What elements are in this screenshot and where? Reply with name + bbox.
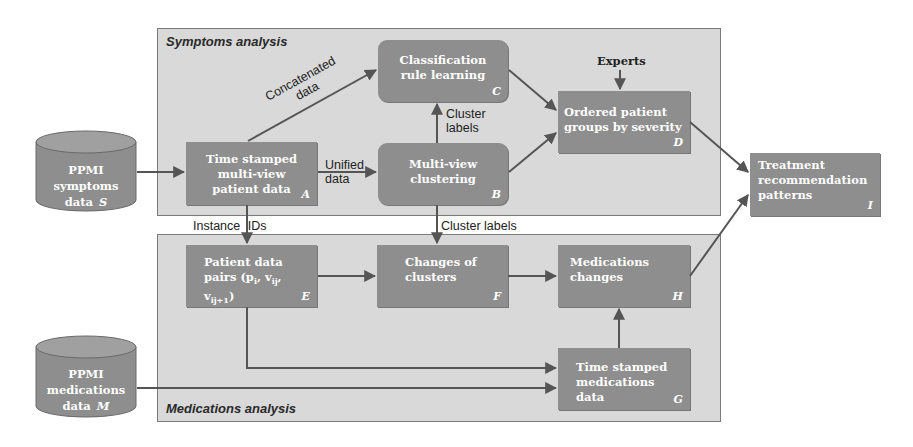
edge-label-cluster-line2: labels	[446, 121, 486, 135]
edge-label-cluster-labels-bottom: Cluster labels	[441, 219, 517, 233]
edge-label-unified-line2: data	[325, 172, 364, 186]
edge-label-cluster-labels-top: Cluster labels	[446, 107, 486, 135]
edge-label-cluster-line1: Cluster	[446, 107, 486, 121]
edge-d-to-i	[690, 122, 748, 172]
edge-label-instance-ids: Instance IDs	[193, 219, 266, 233]
edge-c-to-d	[509, 70, 556, 110]
experts-label: Experts	[597, 54, 646, 68]
edge-b-to-d	[509, 133, 556, 172]
edge-h-to-i	[690, 195, 748, 276]
edge-label-unified-line1: Unified	[325, 158, 364, 172]
edge-label-unified-data: Unified data	[325, 158, 364, 186]
edge-e-to-g	[247, 307, 556, 368]
